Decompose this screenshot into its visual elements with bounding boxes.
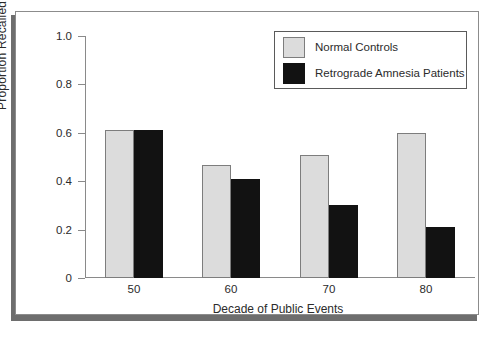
x-axis-tick-label: 50 [114,283,154,295]
black-swatch-icon [283,63,305,84]
y-axis-tick-label: 0.8 [56,76,72,92]
bar-70-amnesia-patients [329,205,358,278]
y-axis-tick-label: 1.0 [56,28,72,44]
y-axis-tick-label: 0.6 [56,125,72,141]
y-axis-tick-label: 0 [66,270,72,286]
x-axis-tick-label: 70 [309,283,349,295]
bar-60-normal-controls [202,165,231,278]
y-axis-tick: 0.2 [78,230,85,231]
y-axis-tick: 0.4 [78,181,85,182]
bar-80-amnesia-patients [426,227,455,278]
bar-70-normal-controls [300,155,329,278]
light-gray-swatch-icon [283,37,305,58]
x-axis-tick-label: 60 [211,283,251,295]
x-axis-title-wrap: Decade of Public Events [0,302,496,316]
y-axis-tick: 0 [78,278,85,279]
bar-60-amnesia-patients [231,179,260,278]
bar-50-amnesia-patients [134,130,163,278]
y-axis-title: Proportion Recalled [0,1,9,110]
bar-50-normal-controls [105,130,134,278]
y-axis-tick: 1.0 [78,36,85,37]
y-axis-tick: 0.6 [78,133,85,134]
y-axis-tick: 0.8 [78,84,85,85]
bar-80-normal-controls [397,133,426,278]
legend-label-amnesia-patients: Retrograde Amnesia Patients [315,66,465,81]
legend-label-normal-controls: Normal Controls [315,40,398,55]
chart-legend: Normal Controls Retrograde Amnesia Patie… [274,31,467,89]
y-axis-tick-label: 0.4 [56,173,72,189]
x-axis-tick-label: 80 [406,283,446,295]
y-axis-tick-label: 0.2 [56,222,72,238]
figure-container: 00.20.40.60.81.0 Proportion Recalled 506… [0,0,496,345]
x-axis-title: Decade of Public Events [213,302,344,316]
